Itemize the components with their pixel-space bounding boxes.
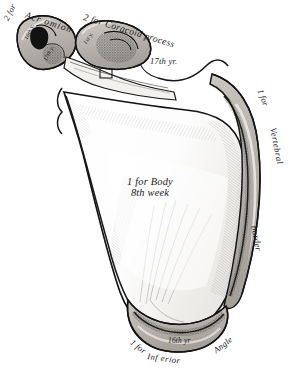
label-coracoid-center-17th-year: 17th yr. <box>150 57 177 66</box>
label-body-line2: 8th week <box>127 187 173 198</box>
label-inferior-angle-center-16th-year: 16th yr <box>168 337 191 345</box>
anatomical-figure-scapula: 2 for Acr omion 16th y. 17th y. 2 for Co… <box>0 0 300 376</box>
label-body: 1 for Body 8th week <box>127 176 173 198</box>
label-body-line1: 1 for Body <box>127 176 173 187</box>
